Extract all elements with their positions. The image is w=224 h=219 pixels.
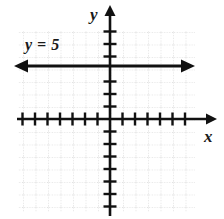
line-equation-label: y = 5 (25, 37, 60, 53)
graph-canvas (0, 0, 224, 219)
grid-lines (18, 31, 195, 212)
coordinate-plane-figure: y x y = 5 (0, 0, 224, 219)
x-axis-label: x (204, 128, 213, 145)
y-axis-label: y (90, 6, 98, 23)
